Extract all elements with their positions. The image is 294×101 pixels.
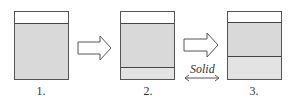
solid-layer	[121, 67, 174, 79]
liquid-layer	[15, 23, 68, 79]
stage-2-label: 2.	[133, 84, 163, 99]
right-arrow-icon	[78, 36, 112, 60]
liquid-layer	[121, 23, 174, 67]
container-stage-2	[120, 11, 175, 80]
stage-3-label: 3.	[239, 84, 269, 99]
container-stage-1	[14, 11, 69, 80]
solid-layer	[228, 56, 281, 79]
liquid-layer	[228, 22, 281, 56]
double-arrow-icon	[183, 74, 221, 82]
container-stage-3	[227, 11, 282, 80]
right-arrow-icon	[184, 33, 219, 57]
stage-1-label: 1.	[26, 84, 56, 99]
